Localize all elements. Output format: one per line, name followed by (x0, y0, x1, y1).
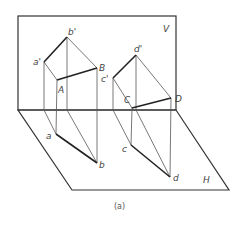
line-ab-segments (44, 37, 97, 163)
label-C: C (124, 95, 131, 105)
label-d-prime: d' (134, 44, 142, 54)
label-d: d (173, 173, 179, 183)
projection-diagram: V H a' b' B A a b c' d' C D c d (a) (0, 0, 239, 227)
line-cd-segments (113, 55, 171, 177)
label-c: c (122, 144, 127, 154)
diagram-canvas: V H a' b' B A a b c' d' C D c d (0, 0, 239, 227)
label-A: A (57, 85, 64, 95)
label-a: a (46, 131, 52, 141)
label-v-plane: V (163, 24, 170, 34)
figure-caption: (a) (0, 202, 239, 211)
label-B: B (99, 63, 105, 73)
label-h-plane: H (203, 175, 210, 185)
label-c-prime: c' (101, 74, 108, 84)
label-D: D (175, 94, 182, 104)
label-b: b (99, 160, 105, 170)
line-cd-projectors (113, 55, 171, 177)
label-a-prime: a' (33, 57, 41, 67)
label-b-prime: b' (68, 27, 76, 37)
